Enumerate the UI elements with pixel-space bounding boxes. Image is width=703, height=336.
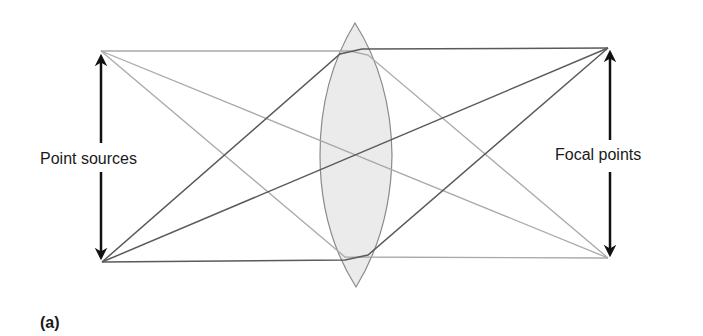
focal-points-label: Focal points xyxy=(555,146,641,163)
point-sources-label: Point sources xyxy=(40,150,137,167)
panel-label: (a) xyxy=(40,314,60,331)
lens-focusing-diagram: Point sources Focal points (a) xyxy=(0,0,703,336)
